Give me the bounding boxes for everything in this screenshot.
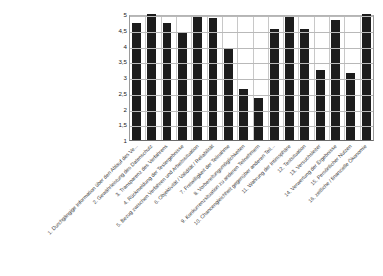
bar[interactable] xyxy=(163,23,172,140)
gridline xyxy=(130,16,373,17)
plot-area xyxy=(129,15,374,141)
x-tick xyxy=(207,16,208,140)
bar[interactable] xyxy=(362,14,371,140)
bar-slot xyxy=(237,16,252,140)
y-tick-label: 4,5 xyxy=(101,28,127,34)
y-tick-label: 1,5 xyxy=(101,122,127,128)
bar[interactable] xyxy=(300,29,309,140)
bar-slot xyxy=(145,16,160,140)
bar-slot xyxy=(314,16,329,140)
bar-slot xyxy=(176,16,191,140)
x-tick xyxy=(237,16,238,140)
bar[interactable] xyxy=(270,29,279,140)
bar-slot xyxy=(191,16,206,140)
bar[interactable] xyxy=(239,89,248,140)
gridline xyxy=(130,32,373,33)
bar[interactable] xyxy=(147,14,156,140)
gridline xyxy=(130,79,373,80)
x-tick xyxy=(222,16,223,140)
y-tick-label: 2,5 xyxy=(101,91,127,97)
bar-slot xyxy=(253,16,268,140)
x-tick xyxy=(253,16,254,140)
gridline xyxy=(130,111,373,112)
bar-slot xyxy=(329,16,344,140)
bar-slot xyxy=(130,16,145,140)
bar[interactable] xyxy=(254,98,263,140)
x-tick xyxy=(145,16,146,140)
y-tick-label: 3 xyxy=(101,75,127,81)
bar-slot xyxy=(298,16,313,140)
gridline xyxy=(130,48,373,49)
x-tick xyxy=(176,16,177,140)
bar[interactable] xyxy=(316,70,325,140)
bar-slot xyxy=(283,16,298,140)
y-tick-label: 2 xyxy=(101,106,127,112)
bar[interactable] xyxy=(346,73,355,140)
y-tick-label: 5 xyxy=(101,12,127,18)
y-axis: 11,522,533,544,55 xyxy=(99,15,127,141)
bar-slot xyxy=(222,16,237,140)
x-tick xyxy=(329,16,330,140)
x-tick xyxy=(298,16,299,140)
bar-slot xyxy=(344,16,359,140)
bar-slot xyxy=(360,16,375,140)
x-tick xyxy=(161,16,162,140)
bar[interactable] xyxy=(331,20,340,140)
x-axis-category-labels: 1. Durchgängige Information über den Abl… xyxy=(0,141,383,276)
bar-slot xyxy=(207,16,222,140)
bar[interactable] xyxy=(132,23,141,140)
bar-slot xyxy=(161,16,176,140)
y-tick-label: 3,5 xyxy=(101,59,127,65)
x-tick xyxy=(314,16,315,140)
gridline xyxy=(130,95,373,96)
x-tick xyxy=(360,16,361,140)
y-tick-label: 4 xyxy=(101,43,127,49)
x-tick xyxy=(268,16,269,140)
bar-chart: 11,522,533,544,55 1. Durchgängige Inform… xyxy=(0,0,383,276)
gridline xyxy=(130,126,373,127)
x-tick xyxy=(283,16,284,140)
x-tick xyxy=(344,16,345,140)
gridline xyxy=(130,63,373,64)
bars-layer xyxy=(130,16,373,140)
x-tick xyxy=(191,16,192,140)
bar-slot xyxy=(268,16,283,140)
